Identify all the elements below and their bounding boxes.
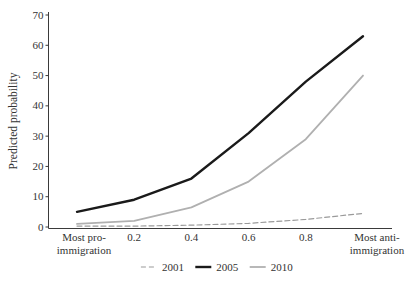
y-tick-label: 30 <box>33 130 45 142</box>
x-end-label-right: immigration <box>350 244 405 256</box>
x-end-label-right: Most anti- <box>354 231 400 243</box>
x-tick-label: 0.2 <box>127 231 141 243</box>
x-tick-label: 0.6 <box>242 231 256 243</box>
x-tick-label: 0.8 <box>299 231 313 243</box>
y-tick-label: 10 <box>33 190 45 202</box>
y-tick-label: 20 <box>33 160 45 172</box>
y-tick-label: 50 <box>33 69 45 81</box>
y-tick-label: 40 <box>33 99 45 111</box>
chart-canvas: 010203040506070Predicted probability0.20… <box>0 0 407 288</box>
series-2001-line <box>77 213 363 226</box>
y-axis-title: Predicted probability <box>7 72 20 169</box>
legend-label-2001: 2001 <box>162 261 184 273</box>
x-tick-label: 0.4 <box>185 231 199 243</box>
predicted-probability-line-chart: 010203040506070Predicted probability0.20… <box>0 0 407 288</box>
y-tick-label: 0 <box>38 221 44 233</box>
legend-label-2010: 2010 <box>271 261 294 273</box>
y-tick-label: 60 <box>33 39 45 51</box>
y-tick-label: 70 <box>33 9 45 21</box>
x-end-label-left: immigration <box>57 244 112 256</box>
legend-label-2005: 2005 <box>216 261 239 273</box>
x-end-label-left: Most pro- <box>62 231 106 243</box>
